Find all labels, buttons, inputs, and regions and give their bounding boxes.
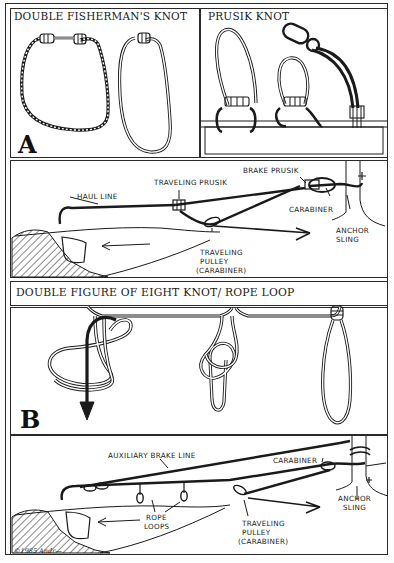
label-pulley-b-3: (CARABINER)	[238, 538, 288, 546]
label-auxiliary-brake-line: AUXILIARY BRAKE LINE	[108, 452, 196, 460]
haul-system-b-drawing	[0, 0, 394, 563]
label-rope-loops-2: LOOPS	[144, 523, 169, 531]
copyright-signature: ©1985 Andr—	[14, 547, 62, 555]
label-carabiner-b: CARABINER	[273, 457, 317, 465]
label-sling-b: SLING	[343, 504, 366, 512]
illustration-sheet: DOUBLE FISHERMAN'S KNOT A PRUSIK KNOT	[0, 0, 394, 563]
